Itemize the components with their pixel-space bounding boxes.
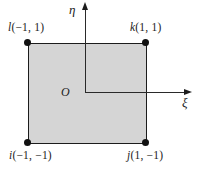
corner-coords-k: (1, 1) [135,21,161,33]
xi-axis-line [85,92,188,93]
corner-label-j: j(1, −1) [127,149,163,162]
eta-axis-line [85,6,86,93]
corner-label-k: k(1, 1) [130,21,161,34]
diagram-canvas: l(−1, 1) k(1, 1) i(−1, −1) j(1, −1) η ξ … [0,0,200,171]
corner-node-l [24,39,31,46]
corner-coords-i: (−1, −1) [12,149,51,161]
eta-axis-label: η [69,3,76,16]
origin-label: O [61,86,70,99]
eta-arrowhead-icon [82,2,88,10]
xi-axis-label: ξ [182,96,188,109]
corner-coords-l: (−1, 1) [11,21,44,33]
corner-label-i: i(−1, −1) [9,149,52,162]
corner-coords-j: (1, −1) [130,149,163,161]
corner-node-k [142,39,149,46]
unit-square [28,43,147,144]
corner-node-j [142,139,149,146]
corner-label-l: l(−1, 1) [8,21,44,34]
corner-node-i [24,139,31,146]
